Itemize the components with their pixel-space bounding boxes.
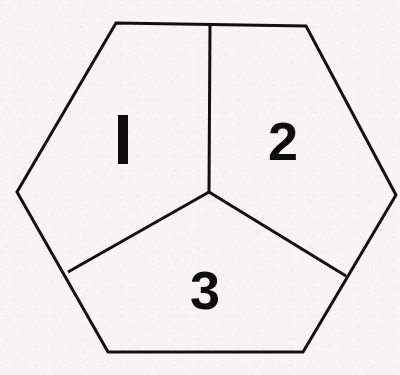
region-2-label: 2 bbox=[268, 114, 298, 168]
divider-line-center-to-lower-right bbox=[209, 192, 346, 276]
figure-container: Hexagon divided into three regions 2 3 bbox=[0, 0, 400, 375]
region-3-label: 3 bbox=[190, 263, 220, 317]
divider-line-center-to-lower-left bbox=[68, 192, 209, 272]
region-1-label bbox=[118, 115, 128, 164]
divider-line-center-to-top bbox=[209, 24, 210, 192]
